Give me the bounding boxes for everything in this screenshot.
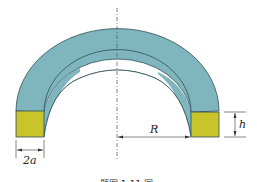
width-arrow-right-icon [38, 149, 43, 152]
figure-caption: 题图 1-11 图 [100, 179, 153, 182]
width-label: 2a [22, 154, 37, 167]
left-cross-section [16, 111, 44, 137]
radius-label: R [149, 123, 158, 136]
width-arrow-left-icon [17, 149, 22, 152]
right-cross-section [191, 112, 219, 137]
height-label: h [239, 118, 246, 131]
height-arrow-top-icon [234, 113, 237, 118]
height-arrow-bottom-icon [234, 131, 237, 136]
ring-diagram: R h 2a 题图 1-11 图 [0, 0, 257, 182]
